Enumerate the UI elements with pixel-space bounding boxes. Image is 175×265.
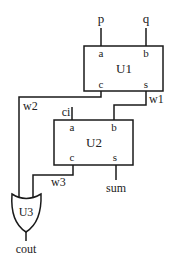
u1-label: U1 bbox=[116, 61, 132, 76]
u2-port-s: s bbox=[113, 151, 117, 163]
wire-label-w3: w3 bbox=[51, 175, 66, 189]
wire-w1 bbox=[114, 91, 146, 120]
input-label-ci: ci bbox=[62, 105, 71, 119]
output-label-cout: cout bbox=[16, 242, 37, 256]
input-label-p: p bbox=[98, 11, 105, 26]
circuit-diagram: p q a b U1 c s w2 w1 ci a b U2 c s sum w… bbox=[0, 0, 175, 265]
u1-port-c: c bbox=[99, 78, 104, 90]
u2-port-c: c bbox=[70, 151, 75, 163]
u1-port-a: a bbox=[99, 47, 104, 59]
output-label-sum: sum bbox=[106, 181, 127, 195]
u2-port-a: a bbox=[70, 121, 75, 133]
u1-port-s: s bbox=[144, 78, 148, 90]
u2-port-b: b bbox=[111, 121, 117, 133]
u2-label: U2 bbox=[86, 135, 102, 150]
u3-label: U3 bbox=[19, 205, 34, 219]
component-u3-or-gate: U3 bbox=[12, 194, 41, 232]
u1-port-b: b bbox=[143, 47, 149, 59]
wire-label-w1: w1 bbox=[149, 92, 164, 106]
wire-label-w2: w2 bbox=[23, 99, 38, 113]
component-u1: a b U1 c s bbox=[84, 46, 163, 91]
input-label-q: q bbox=[143, 11, 150, 26]
component-u2: a b U2 c s bbox=[54, 120, 133, 165]
